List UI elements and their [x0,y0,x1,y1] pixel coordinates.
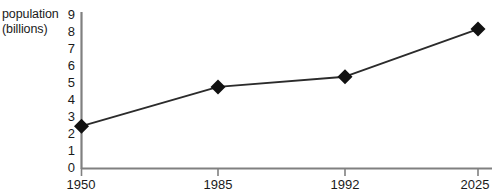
data-point-1992 [338,69,353,84]
population-line-chart: population(billions) 9 8 7 6 5 4 3 2 1 0… [0,0,498,195]
data-line [82,29,479,126]
y-tick-label-9: 9 [61,7,75,22]
y-tick-label-6: 6 [61,58,75,73]
x-tick-label-1985: 1985 [195,177,241,192]
x-tick-label-1992: 1992 [322,177,368,192]
y-tick-label-7: 7 [61,41,75,56]
x-tick-label-1950: 1950 [58,177,104,192]
y-tick-label-5: 5 [61,75,75,90]
data-point-1985 [211,79,226,94]
data-point-1950 [74,119,89,134]
y-tick-label-2: 2 [61,126,75,141]
y-tick-label-3: 3 [61,109,75,124]
y-tick-label-1: 1 [61,143,75,158]
x-tick-label-2025: 2025 [452,177,498,192]
data-point-2025 [471,22,486,37]
y-tick-label-0: 0 [61,160,75,175]
y-tick-label-8: 8 [61,24,75,39]
y-tick-label-4: 4 [61,92,75,107]
